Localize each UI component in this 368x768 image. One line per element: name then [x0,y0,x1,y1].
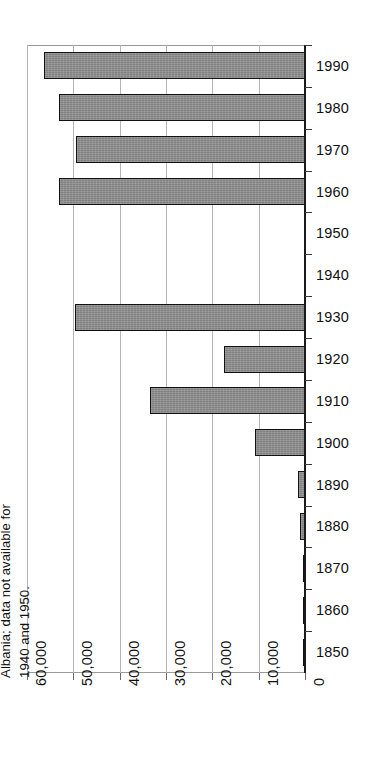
year-label-1890: 1890 [316,477,349,493]
year-tick-1930 [305,296,312,297]
year-tick-1860 [305,589,312,590]
year-tick-1990 [305,45,312,46]
year-label-1860: 1860 [316,602,349,618]
year-tick-1940 [305,254,312,255]
value-label-0: 0 [311,678,327,686]
value-label-30000: 30,000 [172,640,188,686]
bar-1970 [76,136,305,163]
bar-1910 [150,387,305,414]
bar-1980 [59,94,305,121]
year-label-1920: 1920 [316,351,349,367]
year-tick-1920 [305,338,312,339]
year-tick-1910 [305,380,312,381]
year-label-1900: 1900 [316,435,349,451]
value-label-20000: 20,000 [218,640,234,686]
chart-note: Note: Figures based on country of birth;… [0,468,34,678]
value-tick-50000 [73,673,74,680]
bar-1960 [59,178,305,205]
year-label-1870: 1870 [316,560,349,576]
plot-area [27,45,305,673]
value-tick-10000 [259,673,260,680]
value-label-60000: 60,000 [33,640,49,686]
bar-1920 [224,346,305,373]
year-tick-1960 [305,171,312,172]
gridline-50000 [73,45,74,673]
year-tick-1890 [305,464,312,465]
year-tick-1950 [305,212,312,213]
value-label-40000: 40,000 [126,640,142,686]
year-tick-1980 [305,87,312,88]
bar-1930 [75,304,305,331]
bar-1900 [255,429,305,456]
year-label-1950: 1950 [316,225,349,241]
axis-zero-line [304,45,305,673]
value-tick-40000 [120,673,121,680]
year-tick-1850 [305,631,312,632]
value-tick-0 [305,673,306,680]
year-label-1930: 1930 [316,309,349,325]
value-label-50000: 50,000 [79,640,95,686]
bar-chart: 1990198019701960195019401930192019101900… [0,0,368,768]
year-label-1980: 1980 [316,100,349,116]
value-tick-20000 [212,673,213,680]
value-label-10000: 10,000 [265,640,281,686]
year-label-1970: 1970 [316,142,349,158]
year-tick-1900 [305,422,312,423]
year-tick-1970 [305,129,312,130]
year-label-1850: 1850 [316,644,349,660]
year-tick-1880 [305,506,312,507]
value-tick-30000 [166,673,167,680]
year-label-1960: 1960 [316,184,349,200]
year-label-1940: 1940 [316,267,349,283]
bar-1990 [44,52,305,79]
year-tick-1870 [305,547,312,548]
year-label-1880: 1880 [316,518,349,534]
year-label-1990: 1990 [316,58,349,74]
gridline-0 [305,45,306,673]
year-label-1910: 1910 [316,393,349,409]
